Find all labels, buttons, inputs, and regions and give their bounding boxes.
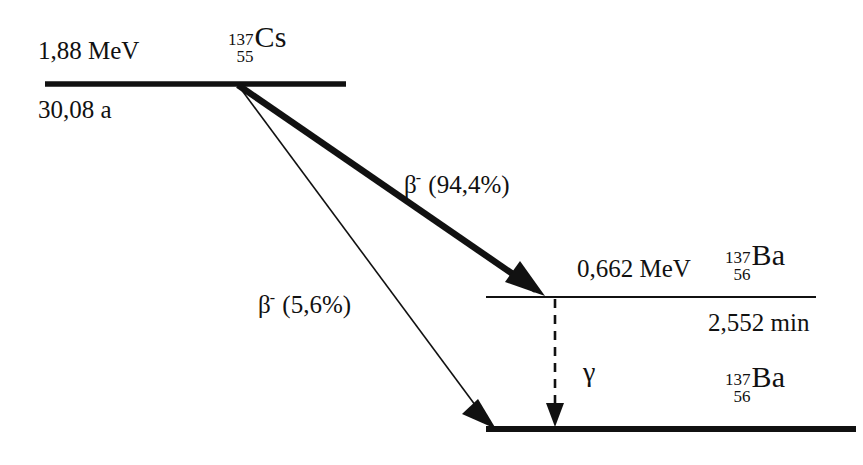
ba137m-mass-number: 137 [725, 249, 751, 266]
decay-scheme-diagram: 1,88 MeV 30,08 a 137 55 Cs β- (94,4%) β-… [0, 0, 863, 465]
beta-major-branch-label: β- (94,4%) [404, 171, 510, 197]
ba137m-element-symbol: Ba [752, 238, 786, 271]
ba137-mass-number: 137 [725, 371, 751, 388]
cs137-energy-label: 1,88 MeV [38, 38, 139, 63]
cs137-half-life-label: 30,08 a [38, 97, 112, 122]
transition-arrow-gamma [546, 299, 564, 427]
beta-major-particle: β [404, 171, 417, 198]
ba137-nuclide-numbers: 137 56 [725, 371, 751, 406]
beta-minor-branching: (5,6%) [282, 291, 351, 318]
ba137m-energy-label: 0,662 MeV [577, 256, 691, 281]
cs137-nuclide-numbers: 137 55 [228, 31, 254, 66]
ba137-nuclide-label: 137 56 Ba [725, 362, 785, 408]
ba137m-half-life-label: 2,552 min [708, 310, 809, 335]
ba137-element-symbol: Ba [752, 360, 786, 393]
beta-major-charge: - [416, 169, 421, 186]
beta-minor-particle: β [258, 291, 271, 318]
cs137-atomic-number: 55 [237, 48, 254, 65]
cs137-mass-number: 137 [228, 31, 254, 48]
ba137-atomic-number: 56 [734, 388, 751, 405]
beta-minor-branch-label: β- (5,6%) [258, 291, 351, 317]
cs137-nuclide-label: 137 55 Cs [228, 22, 287, 68]
cs137-element-symbol: Cs [255, 20, 287, 53]
beta-minor-charge: - [270, 289, 275, 306]
beta-major-branching: (94,4%) [428, 171, 509, 198]
gamma-transition-label: γ [583, 358, 595, 386]
ba137m-nuclide-label: 137 56 Ba [725, 240, 785, 286]
ba137m-atomic-number: 56 [734, 266, 751, 283]
ba137m-nuclide-numbers: 137 56 [725, 249, 751, 284]
transition-arrow-beta-minor [238, 85, 496, 429]
